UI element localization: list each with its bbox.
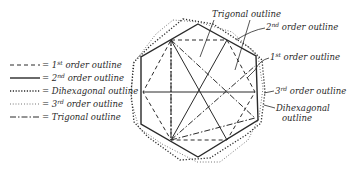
svg-text:= 3rd order outline: = 3rd order outline bbox=[42, 98, 123, 109]
svg-text:= 1st order outline: = 1st order outline bbox=[42, 59, 122, 70]
crystal-figure bbox=[131, 19, 265, 162]
legend-item-third-order: = 3rd order outline bbox=[10, 98, 123, 109]
svg-text:= 2nd order outline: = 2nd order outline bbox=[42, 72, 124, 83]
legend-item-second-order: = 2nd order outline bbox=[10, 72, 124, 83]
legend: = 1st order outline = 2nd order outline … bbox=[10, 59, 138, 122]
legend-label-first-order: = 1 bbox=[42, 60, 57, 70]
legend-suffix: order outline bbox=[64, 99, 123, 109]
legend-label-trigonal: = Trigonal outline bbox=[42, 112, 121, 122]
svg-text:1st order outline: 1st order outline bbox=[270, 51, 340, 62]
leader-line bbox=[264, 105, 275, 108]
crystal-outline-diagram: = 1st order outline = 2nd order outline … bbox=[0, 0, 354, 174]
dihexagonal-outline bbox=[131, 19, 265, 160]
callout-trigonal: Trigonal outline bbox=[212, 9, 281, 19]
callout-dihexagonal: Dihexagonal bbox=[275, 103, 330, 113]
callout-dihexagonal-line2: outline bbox=[282, 113, 312, 123]
svg-text:2nd order outline: 2nd order outline bbox=[265, 21, 338, 32]
legend-sup: nd bbox=[57, 72, 65, 79]
legend-item-first-order: = 1st order outline bbox=[10, 59, 122, 70]
legend-item-trigonal: = Trigonal outline bbox=[10, 112, 121, 122]
trigonal-outline bbox=[171, 40, 255, 140]
legend-suffix: order outline bbox=[63, 60, 122, 70]
legend-item-dihexagonal: = Dihexagonal outline bbox=[10, 86, 138, 96]
legend-label-dihexagonal: = Dihexagonal outline bbox=[42, 86, 138, 96]
legend-suffix: order outline bbox=[65, 73, 124, 83]
legend-label-third-order: = 3 bbox=[42, 99, 57, 109]
leader-line bbox=[236, 28, 265, 40]
leader-line bbox=[247, 58, 269, 78]
svg-text:3rd order outline: 3rd order outline bbox=[275, 85, 346, 96]
legend-label-second-order: = 2 bbox=[42, 73, 57, 83]
callouts: Trigonal outline 2nd order outline 1st o… bbox=[200, 9, 346, 123]
